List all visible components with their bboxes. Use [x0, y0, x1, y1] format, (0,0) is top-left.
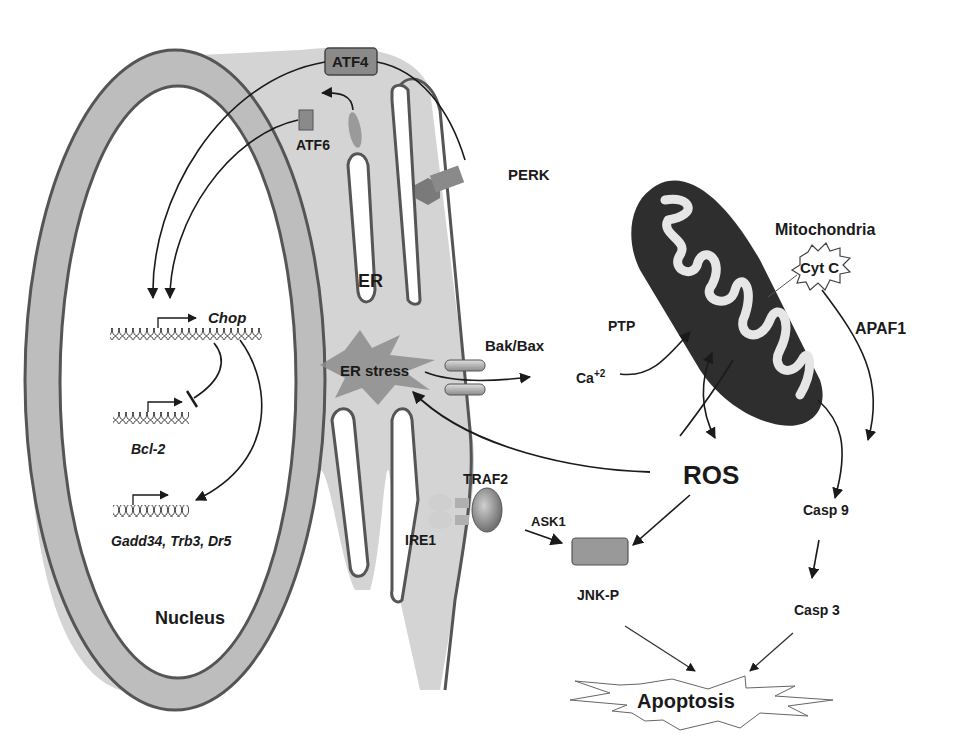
jnk-protein [572, 538, 628, 565]
atf6-label: ATF6 [296, 137, 330, 153]
casp3-to-apoptosis-arrow [750, 633, 793, 671]
ask1-label: ASK1 [531, 514, 566, 529]
mito-to-casp9-arrow [818, 400, 842, 498]
jnk-to-apoptosis-arrow [625, 626, 695, 671]
targets-label: Gadd34, Trb3, Dr5 [111, 533, 232, 549]
chop-dna-coil [110, 328, 262, 340]
bcl2-label: Bcl-2 [131, 441, 165, 457]
nucleus-label: Nucleus [155, 608, 225, 628]
cyt-c-to-casp9-arrow [822, 290, 873, 440]
ask1-to-jnk-arrow [525, 530, 562, 543]
mitochondrion [631, 181, 822, 426]
traf2-label: TRAF2 [463, 471, 508, 487]
apaf1-label: APAF1 [855, 320, 906, 337]
calcium-label: Ca+2 [576, 368, 606, 386]
ros-label: ROS [683, 460, 739, 490]
ptp-label: PTP [608, 318, 635, 334]
targets-dna [113, 505, 189, 517]
perk-label: PERK [508, 166, 550, 183]
er-stress-label: ER stress [340, 362, 409, 379]
bcl2-dna [113, 412, 189, 424]
bak-bax-label: Bak/Bax [485, 337, 545, 354]
cyt-c-label: Cyt C [800, 259, 839, 276]
pathway-diagram: ER stress ER ATF4 ATF6 PERK Chop Bcl-2 [0, 0, 958, 748]
casp3-label: Casp 3 [794, 602, 840, 618]
ros-to-jnk-arrow [633, 495, 690, 545]
er-label: ER [358, 271, 383, 291]
atf4-label: ATF4 [332, 53, 369, 70]
casp9-label: Casp 9 [803, 502, 849, 518]
mitochondria-label: Mitochondria [775, 221, 876, 238]
casp9-to-casp3-arrow [812, 540, 819, 578]
calcium-to-ptp-arrow [620, 332, 690, 375]
atf6-cleaved-protein [299, 110, 313, 130]
chop-label: Chop [208, 309, 246, 326]
apoptosis-label: Apoptosis [637, 690, 735, 712]
jnk-label: JNK-P [577, 587, 619, 603]
traf2-protein [472, 488, 502, 532]
ire1-label: IRE1 [405, 532, 436, 548]
